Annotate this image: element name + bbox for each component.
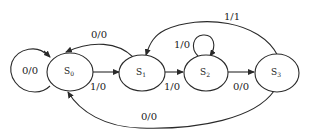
state-sub-s2: 2 xyxy=(206,71,210,78)
transition-label-s0-s1: 1/0 xyxy=(90,81,106,92)
transition-s3-s0 xyxy=(68,91,274,128)
transition-label-s3-s0: 0/0 xyxy=(141,111,157,122)
transition-label-s2-self: 1/0 xyxy=(174,39,190,50)
state-s1: S1 xyxy=(119,55,165,91)
transition-label-s1-s0: 0/0 xyxy=(91,29,107,40)
transition-label-s0-self: 0/0 xyxy=(22,65,38,76)
state-sub-s1: 1 xyxy=(142,71,146,78)
state-s0: S0 xyxy=(47,53,93,91)
transition-s0-self-arrow xyxy=(44,51,50,57)
state-s3: S3 xyxy=(255,54,299,92)
transition-s2-self xyxy=(193,35,213,56)
state-sub-s0: 0 xyxy=(70,70,74,77)
transition-label-s1-s2: 1/0 xyxy=(164,81,180,92)
state-s2: S2 xyxy=(184,55,228,91)
transition-label-s2-s3: 0/0 xyxy=(233,81,249,92)
state-diagram: 0/0 0/0 1/1 0/0 1/0 1/0 1/0 0/0 S0 S1 S2… xyxy=(0,0,309,138)
state-sub-s3: 3 xyxy=(277,71,281,78)
transition-label-s3-s1: 1/1 xyxy=(224,11,240,22)
